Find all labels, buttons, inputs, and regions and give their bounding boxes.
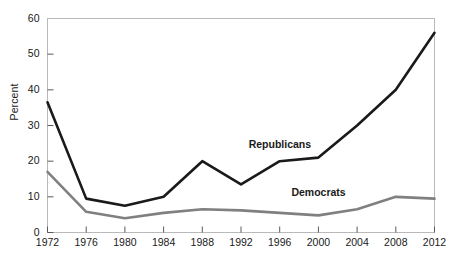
x-tick-marks <box>48 227 435 233</box>
y-tick-marks <box>48 54 54 232</box>
series-line-democrats <box>48 172 435 218</box>
series-lines <box>48 33 435 218</box>
chart-figure: Percent 0102030405060 197219761980198419… <box>0 0 458 264</box>
plot-frame <box>48 19 435 233</box>
series-line-republicans <box>48 33 435 206</box>
plot-canvas <box>0 0 458 264</box>
